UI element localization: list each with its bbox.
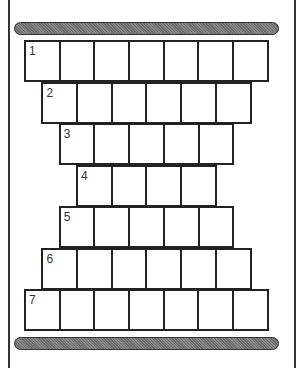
grid-cell: 3 — [59, 123, 96, 165]
top-shaded-bar — [14, 22, 279, 35]
grid-cell: 7 — [24, 289, 61, 331]
grid-cell — [215, 82, 252, 124]
row-number-label: 2 — [46, 86, 53, 100]
grid-cell — [111, 82, 148, 124]
grid-cell — [145, 82, 182, 124]
row-4: 4 — [76, 165, 217, 207]
grid-cell — [215, 248, 252, 290]
grid-cell — [163, 289, 200, 331]
grid-cell — [59, 40, 96, 82]
grid-cell — [198, 206, 235, 248]
row-3: 3 — [59, 123, 234, 165]
grid-cell — [76, 248, 113, 290]
grid-cell — [145, 165, 182, 207]
grid-cell — [93, 123, 130, 165]
row-number-label: 4 — [81, 169, 88, 183]
grid-cell — [59, 289, 96, 331]
grid-cell: 1 — [24, 40, 61, 82]
grid-cell — [128, 289, 165, 331]
grid-cell — [180, 248, 217, 290]
row-number-label: 1 — [29, 44, 36, 58]
row-7: 7 — [24, 289, 269, 331]
grid-cell: 2 — [41, 82, 78, 124]
grid-cell — [180, 165, 217, 207]
row-number-label: 6 — [46, 252, 53, 266]
grid-cell — [198, 123, 235, 165]
grid-cell — [93, 40, 130, 82]
row-number-label: 7 — [29, 293, 36, 307]
row-number-label: 3 — [64, 127, 71, 141]
grid-cell — [128, 40, 165, 82]
grid-cell — [111, 248, 148, 290]
grid-cell — [232, 289, 269, 331]
grid-cell — [128, 123, 165, 165]
grid-cell — [197, 40, 234, 82]
grid-cell — [145, 248, 182, 290]
grid-cell: 5 — [59, 206, 96, 248]
grid-cell — [232, 40, 269, 82]
row-number-label: 5 — [64, 210, 71, 224]
grid-cell — [111, 165, 148, 207]
grid-cell — [76, 82, 113, 124]
grid-cell — [93, 206, 130, 248]
row-2: 2 — [41, 82, 251, 124]
grid-cell: 4 — [76, 165, 113, 207]
grid-cell — [163, 206, 200, 248]
row-1: 1 — [24, 40, 269, 82]
grid-cell: 6 — [41, 248, 78, 290]
grid-cell — [197, 289, 234, 331]
grid-cell — [93, 289, 130, 331]
bottom-shaded-bar — [14, 337, 279, 350]
row-6: 6 — [41, 248, 251, 290]
row-5: 5 — [59, 206, 234, 248]
grid-cell — [128, 206, 165, 248]
grid-cell — [163, 40, 200, 82]
grid-cell — [180, 82, 217, 124]
grid-cell — [163, 123, 200, 165]
